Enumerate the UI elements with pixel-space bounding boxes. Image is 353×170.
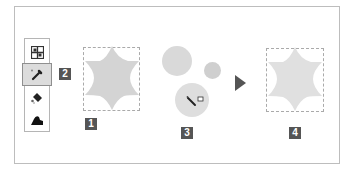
step-badge-2: 2 <box>59 68 71 80</box>
paint-bucket-icon <box>30 91 44 105</box>
star-shape-original <box>84 44 140 112</box>
eyedropper-icon <box>30 68 44 82</box>
star-shape-result <box>267 45 323 113</box>
pattern-stamp-tool[interactable] <box>25 41 49 63</box>
paint-bucket-tool[interactable] <box>25 87 49 109</box>
arrow-right-icon <box>235 75 246 91</box>
tool-panel <box>24 38 50 132</box>
eraser-icon <box>30 114 44 126</box>
eyedropper-tool[interactable] <box>22 63 52 86</box>
step-badge-4: 4 <box>289 127 301 139</box>
pattern-stamp-icon <box>31 46 44 59</box>
eraser-tool[interactable] <box>25 109 49 131</box>
eyedropper-cursor-icon <box>186 95 206 111</box>
step-badge-3: 3 <box>181 127 193 139</box>
step-badge-1: 1 <box>85 118 97 130</box>
color-swatch-large <box>162 46 192 76</box>
color-swatch-small <box>204 62 221 79</box>
